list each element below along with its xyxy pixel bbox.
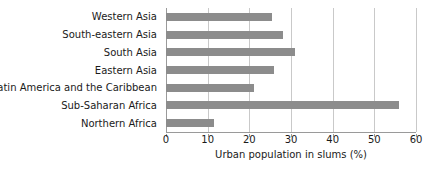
bar: [166, 31, 283, 39]
category-label-text: Latin America and the Caribbean: [0, 82, 157, 93]
x-tick-label: 40: [326, 134, 339, 146]
x-axis-tick-labels: 0102030405060: [166, 134, 416, 148]
bar-row: [166, 97, 416, 115]
category-label-1: South-eastern Asia: [0, 26, 162, 44]
bar-row: [166, 79, 416, 97]
category-label-5: Sub-Saharan Africa: [0, 97, 162, 115]
bar: [166, 119, 214, 127]
x-tick-label: 30: [285, 134, 298, 146]
category-label-text: Sub-Saharan Africa: [61, 100, 157, 111]
category-label-4: Latin America and the Caribbean: [0, 79, 162, 97]
bar: [166, 66, 274, 74]
x-tick-label: 20: [243, 134, 256, 146]
gridline: [416, 8, 417, 132]
plot-area: [166, 8, 416, 132]
category-label-text: South Asia: [104, 47, 157, 58]
bar-series: [166, 8, 416, 132]
bar: [166, 48, 295, 56]
x-tick-label: 10: [201, 134, 214, 146]
category-axis-labels: Western Asia South-eastern Asia South As…: [0, 8, 162, 132]
category-label-6: Northern Africa: [0, 114, 162, 132]
bar-chart: Western Asia South-eastern Asia South As…: [0, 0, 446, 173]
bar: [166, 84, 254, 92]
category-label-text: South-eastern Asia: [62, 29, 157, 40]
x-tick-label: 60: [410, 134, 423, 146]
x-axis-line: [166, 132, 416, 133]
category-label-0: Western Asia: [0, 8, 162, 26]
bar-row: [166, 8, 416, 26]
category-label-2: South Asia: [0, 43, 162, 61]
bar-row: [166, 26, 416, 44]
category-label-text: Northern Africa: [81, 118, 157, 129]
bar: [166, 13, 272, 21]
x-axis-title: Urban population in slums (%): [166, 149, 416, 161]
x-tick-label: 50: [368, 134, 381, 146]
bar-row: [166, 114, 416, 132]
x-tick-label: 0: [163, 134, 169, 146]
bar: [166, 101, 399, 109]
bar-row: [166, 61, 416, 79]
category-label-text: Western Asia: [92, 11, 157, 22]
category-label-text: Eastern Asia: [95, 65, 157, 76]
category-label-3: Eastern Asia: [0, 61, 162, 79]
bar-row: [166, 43, 416, 61]
